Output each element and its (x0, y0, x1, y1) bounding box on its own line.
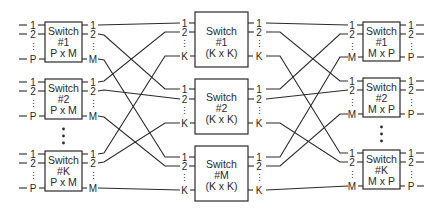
ellipsis-icon: ⋮ (89, 42, 98, 52)
port-label: K (256, 185, 263, 196)
port-label: M (348, 109, 356, 120)
right-interconnect-wires (266, 23, 348, 190)
port-label: M (89, 111, 97, 122)
port-label: K (256, 118, 263, 129)
port-label: P (30, 183, 37, 194)
port-label: 2 (408, 85, 414, 96)
ellipsis-icon: ⋮ (255, 173, 264, 183)
port-label: P (408, 181, 415, 192)
wire-m1-k-to-rk-1 (266, 56, 348, 153)
wire-m2-1-to-r1-2 (266, 34, 348, 89)
port-label: K (181, 118, 188, 129)
egress-more-switches-icon (380, 126, 383, 143)
ellipsis-icon: ⋮ (348, 98, 357, 108)
ellipsis-icon: ⋮ (348, 42, 357, 52)
port-label: P (408, 109, 415, 120)
ingress-switch-k: Switch #K P x M 1 2 ⋮ P 1 2 ⋮ M (19, 149, 98, 194)
ingress-more-switches-icon (62, 128, 65, 145)
port-label: K (256, 51, 263, 62)
ellipsis-icon: ⋮ (407, 42, 416, 52)
ellipsis-icon: ⋮ (29, 42, 38, 52)
port-label: M (348, 52, 356, 63)
switch-size: P x M (50, 47, 77, 59)
port-label: 2 (182, 27, 188, 38)
switch-size: (K x K) (205, 180, 237, 192)
left-interconnect-wires (98, 23, 180, 190)
port-label: P (408, 52, 415, 63)
port-label: 2 (408, 157, 414, 168)
ellipsis-icon: ⋮ (255, 106, 264, 116)
egress-switch-k: Switch #K M x P 1 2 ⋮ M 1 2 ⋮ P (348, 148, 425, 192)
port-label: 2 (30, 29, 36, 40)
port-label: 2 (256, 94, 262, 105)
ellipsis-icon: ⋮ (29, 171, 38, 181)
egress-switch-2: Switch #2 M x P 1 2 ⋮ M 1 2 ⋮ P (348, 76, 425, 120)
middle-switch-1: Switch #1 (K x K) 1 2 ⋮ K 1 2 ⋮ K (180, 12, 264, 67)
switch-size: M x P (368, 47, 395, 59)
ellipsis-icon: ⋮ (29, 99, 38, 109)
port-label: 2 (30, 158, 36, 169)
switch-size: M x P (368, 175, 395, 187)
clos-network-diagram: Switch #1 P x M 1 2 ⋮ P 1 2 ⋮ M Switch #… (0, 0, 447, 213)
wire-l1-1-to-m1-1 (98, 23, 180, 25)
port-label: P (30, 54, 37, 65)
port-label: M (89, 183, 97, 194)
switch-size: (K x K) (205, 47, 237, 59)
port-label: 2 (349, 157, 355, 168)
port-label: 2 (90, 86, 96, 97)
port-label: 2 (90, 29, 96, 40)
ellipsis-icon: ⋮ (407, 98, 416, 108)
port-label: K (181, 51, 188, 62)
port-label: K (181, 185, 188, 196)
ellipsis-icon: ⋮ (180, 39, 189, 49)
switch-size: P x M (50, 104, 77, 116)
middle-switch-2: Switch #2 (K x K) 1 2 ⋮ K 1 2 ⋮ K (180, 79, 264, 134)
switch-size: P x M (50, 176, 77, 188)
port-label: 2 (182, 94, 188, 105)
port-label: 2 (349, 29, 355, 40)
ellipsis-icon: ⋮ (348, 170, 357, 180)
ellipsis-icon: ⋮ (180, 106, 189, 116)
ingress-switch-2: Switch #2 P x M 1 2 ⋮ P 1 2 ⋮ M (19, 77, 98, 122)
wire-l1-2-to-m2-1 (98, 34, 180, 89)
port-label: 2 (30, 86, 36, 97)
wire-lk-m-to-mm-k (98, 188, 180, 190)
wire-mm-k-to-rk-m (266, 186, 348, 190)
egress-switch-1: Switch #1 M x P 1 2 ⋮ M 1 2 ⋮ P (348, 20, 425, 63)
port-label: 2 (349, 85, 355, 96)
wire-l2-1-to-m1-2 (98, 32, 180, 82)
port-label: 2 (256, 161, 262, 172)
ellipsis-icon: ⋮ (180, 173, 189, 183)
ellipsis-icon: ⋮ (255, 39, 264, 49)
ellipsis-icon: ⋮ (89, 99, 98, 109)
port-label: 2 (408, 29, 414, 40)
port-label: 2 (256, 27, 262, 38)
wire-m2-2-to-r2-2 (266, 90, 348, 99)
port-label: M (89, 54, 97, 65)
port-label: 2 (182, 161, 188, 172)
switch-size: (K x K) (205, 113, 237, 125)
ellipsis-icon: ⋮ (407, 170, 416, 180)
switch-size: M x P (368, 103, 395, 115)
middle-switch-m: Switch #M (K x K) 1 2 ⋮ K 1 2 ⋮ K (180, 146, 264, 201)
port-label: 2 (90, 158, 96, 169)
port-label: P (30, 111, 37, 122)
wire-m1-1-to-r1-1 (266, 23, 348, 25)
ellipsis-icon: ⋮ (89, 171, 98, 181)
ingress-switch-1: Switch #1 P x M 1 2 ⋮ P 1 2 ⋮ M (19, 20, 98, 65)
port-label: M (348, 181, 356, 192)
